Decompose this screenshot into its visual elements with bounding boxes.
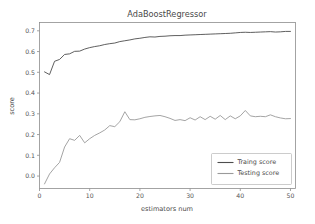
chart-canvas: AdaBoostRegressor 0.00.10.20.30.40.50.60…: [0, 0, 315, 224]
plot-background: [0, 0, 315, 224]
chart-legend[interactable]: Traing scoreTesting score: [212, 154, 292, 185]
legend-label-1: Testing score: [237, 169, 280, 177]
x-tick-label: 20: [136, 192, 144, 199]
y-tick-label: 0.6: [25, 48, 35, 55]
y-axis-label: score: [8, 97, 16, 115]
y-tick-label: 0.0: [25, 172, 35, 179]
x-tick-label: 40: [236, 192, 244, 199]
chart-title: AdaBoostRegressor: [127, 9, 207, 19]
chart-figure: AdaBoostRegressor 0.00.10.20.30.40.50.60…: [0, 0, 315, 224]
y-tick-label: 0.4: [25, 89, 35, 96]
x-tick-label: 0: [38, 192, 42, 199]
y-tick-label: 0.7: [25, 27, 35, 34]
x-tick-label: 30: [186, 192, 194, 199]
y-tick-label: 0.1: [25, 152, 35, 159]
y-tick-label: 0.5: [25, 69, 35, 76]
y-tick-label: 0.2: [25, 131, 35, 138]
x-tick-label: 10: [86, 192, 94, 199]
x-axis-label: estimators num: [141, 205, 193, 213]
x-tick-label: 50: [287, 192, 295, 199]
y-tick-label: 0.3: [25, 110, 35, 117]
legend-label-0: Traing score: [237, 158, 277, 166]
